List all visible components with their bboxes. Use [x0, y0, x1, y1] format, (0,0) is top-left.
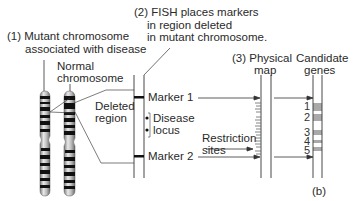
restriction-sites-label-cont: sites: [202, 144, 226, 157]
candidate-genes-label-cont: genes: [304, 64, 335, 77]
marker-1-label: Marker 1: [148, 91, 193, 104]
marker-2-band: [134, 155, 144, 158]
disease-locus-bracket: [145, 113, 150, 137]
step2-label-cont2: in mutant chromosome.: [147, 31, 267, 44]
gene-number-5: 5: [304, 145, 310, 156]
gene-number-2: 2: [304, 112, 310, 123]
marker-2-label: Marker 2: [148, 150, 193, 163]
restriction-site-ticks: [255, 103, 261, 154]
marker-1-band: [134, 96, 144, 99]
candidate-genes-column: [313, 75, 322, 178]
physical-map: [261, 75, 271, 178]
step1-label: (1) Mutant chromosome: [7, 30, 129, 43]
fish-leader: [144, 48, 170, 75]
step3-label-cont: map: [254, 64, 276, 77]
mutant-chromosome: [40, 60, 50, 196]
panel-label: (b): [312, 185, 326, 198]
step1-label-cont: associated with disease: [25, 43, 146, 56]
normal-chromosome-label-cont: chromosome: [57, 72, 123, 85]
deleted-region-label-cont: region: [95, 112, 127, 125]
disease-locus-label-cont: locus: [153, 124, 180, 137]
step2-label: (2) FISH places markers: [134, 6, 259, 19]
